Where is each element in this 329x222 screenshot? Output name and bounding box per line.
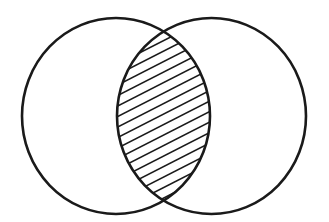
hatch-line xyxy=(100,0,230,52)
hatch-line xyxy=(100,217,230,222)
hatch-line xyxy=(100,28,230,94)
hatch-line xyxy=(100,0,230,10)
hatch-line xyxy=(100,7,230,73)
hatch-line xyxy=(100,185,230,222)
hatch-line xyxy=(100,17,230,83)
venn-diagram xyxy=(0,0,329,222)
set-b-circle xyxy=(117,18,306,214)
hatch-line xyxy=(100,0,230,31)
hatch-line xyxy=(100,0,230,42)
hatch-line xyxy=(100,154,230,220)
